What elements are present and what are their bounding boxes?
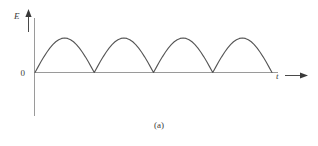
rectified-sine-plot: E 0 t (a) [0, 0, 318, 146]
waveform-curve [35, 38, 272, 73]
y-axis-label: E [13, 11, 20, 21]
x-axis-label: t [276, 71, 279, 81]
figure-container: E 0 t (a) [0, 0, 318, 146]
x-axis-arrow [285, 72, 308, 78]
figure-caption: (a) [154, 120, 164, 130]
origin-label: 0 [21, 68, 26, 78]
y-axis-arrow [25, 9, 31, 32]
